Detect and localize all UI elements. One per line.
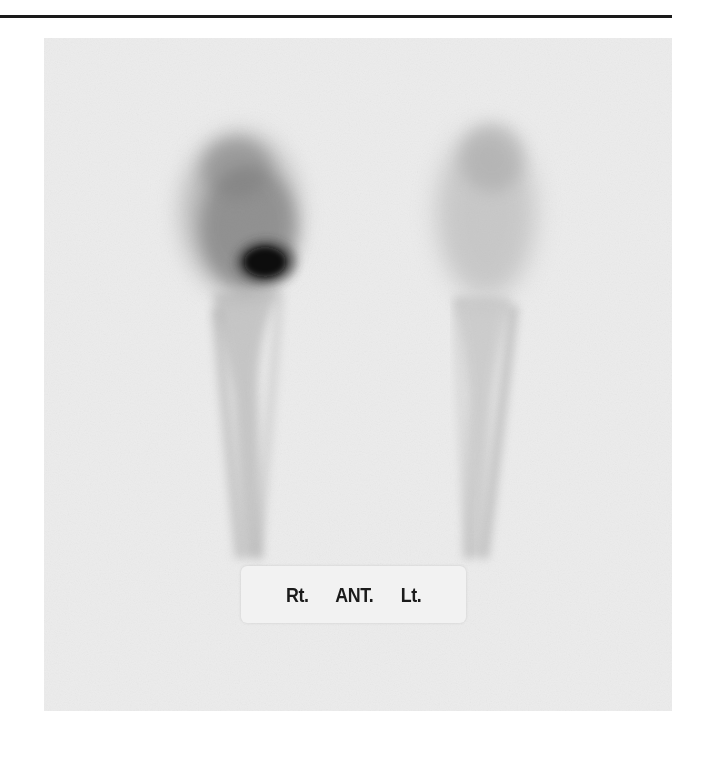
view-label: ANT.: [336, 583, 374, 607]
scintigraphy-image: Rt. ANT. Lt.: [44, 38, 672, 711]
page: Rt. ANT. Lt.: [0, 0, 717, 772]
left-side-label: Lt.: [401, 583, 422, 607]
view-label-strip: Rt. ANT. Lt.: [241, 566, 466, 623]
right-side-label: Rt.: [286, 583, 309, 607]
top-rule-divider: [0, 15, 672, 18]
hot-spot-lesion: [236, 240, 296, 284]
